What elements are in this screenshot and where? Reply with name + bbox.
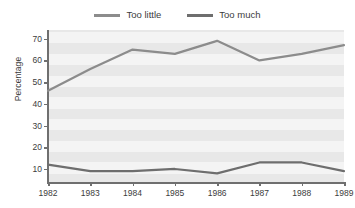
chart-legend: Too little Too much bbox=[0, 6, 355, 24]
y-axis-tick bbox=[44, 104, 48, 106]
x-axis-tick-label: 1988 bbox=[292, 189, 311, 198]
y-axis-tick bbox=[44, 39, 48, 41]
legend-item-too-little[interactable]: Too little bbox=[94, 10, 161, 20]
y-axis-tick-label: 60 bbox=[33, 56, 42, 65]
y-axis-tick-label: 40 bbox=[33, 99, 42, 108]
y-axis-tick bbox=[44, 82, 48, 84]
x-axis-tick-label: 1985 bbox=[165, 189, 184, 198]
y-axis-tick-label: 30 bbox=[33, 121, 42, 130]
line-chart: Too little Too much Percentage 102030405… bbox=[0, 0, 355, 208]
y-axis-tick-label: 50 bbox=[33, 78, 42, 87]
legend-item-too-much[interactable]: Too much bbox=[187, 10, 260, 20]
legend-swatch-too-little-icon bbox=[94, 14, 120, 17]
y-axis-title: Percentage bbox=[13, 19, 23, 139]
x-axis-tick-label: 1982 bbox=[39, 189, 58, 198]
x-axis-tick-label: 1989 bbox=[335, 189, 354, 198]
y-axis-tick bbox=[44, 60, 48, 62]
x-axis-tick bbox=[90, 182, 92, 186]
y-axis-tick bbox=[44, 126, 48, 128]
plot-wrapper: 1020304050607019821983198419851986198719… bbox=[48, 30, 344, 182]
x-axis-tick bbox=[133, 182, 135, 186]
x-axis-tick-label: 1987 bbox=[250, 189, 269, 198]
x-axis-tick-label: 1983 bbox=[81, 189, 100, 198]
x-axis-tick-label: 1984 bbox=[123, 189, 142, 198]
x-axis-tick bbox=[48, 182, 50, 186]
y-axis-tick-label: 10 bbox=[33, 164, 42, 173]
x-axis-tick bbox=[217, 182, 219, 186]
y-axis-tick-label: 70 bbox=[33, 34, 42, 43]
x-axis-tick bbox=[175, 182, 177, 186]
legend-swatch-too-much-icon bbox=[187, 14, 213, 17]
y-axis-tick-label: 20 bbox=[33, 143, 42, 152]
legend-label-too-much: Too much bbox=[219, 10, 260, 20]
x-axis-tick bbox=[344, 182, 346, 186]
series-lines bbox=[48, 30, 344, 182]
x-axis-tick bbox=[302, 182, 304, 186]
legend-label-too-little: Too little bbox=[126, 10, 161, 20]
y-axis-tick bbox=[44, 147, 48, 149]
y-axis-tick bbox=[44, 169, 48, 171]
series-line-too-much bbox=[48, 162, 344, 173]
x-axis-tick-label: 1986 bbox=[208, 189, 227, 198]
series-line-too-little bbox=[48, 41, 344, 91]
x-axis-tick bbox=[259, 182, 261, 186]
